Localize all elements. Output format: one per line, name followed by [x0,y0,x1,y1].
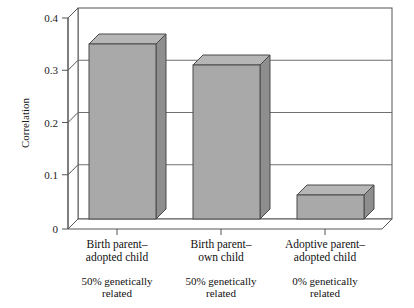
bar-1-front-face [89,44,156,219]
bar-3-front-face [297,195,364,219]
plot-left-wall [68,8,78,229]
y-axis-title: Correlation [19,97,31,148]
x-axis-sublabels: 50% genetically related 50% genetically … [81,275,358,299]
x-axis-category-labels: Birth parent– adopted child Birth parent… [86,238,365,264]
sublabel-1-line2: related [102,287,132,299]
category-label-3-line2: adopted child [294,251,357,264]
sublabel-3-line2: related [310,287,340,299]
ytick-label-0.1: 0.1 [44,169,58,181]
category-label-2-line1: Birth parent– [191,238,252,251]
bar-adoptive-parent-adopted-child[interactable] [297,185,374,219]
bar-1-top-face [89,34,166,44]
ytick-label-0.2: 0.2 [44,117,58,129]
chart-svg: 0.4 0.3 0.2 0.1 0 Correlation [0,0,414,308]
correlation-bar-chart: 0.4 0.3 0.2 0.1 0 Correlation [0,0,414,308]
y-axis-tick-labels: 0.4 0.3 0.2 0.1 0 [44,12,58,235]
bar-2-top-face [193,55,270,65]
category-label-1-line2: adopted child [86,251,149,264]
bar-2-side-face [260,55,270,219]
ytick-label-0.3: 0.3 [44,64,58,76]
bar-birth-parent-adopted-child[interactable] [89,34,166,219]
category-label-1-line1: Birth parent– [87,238,148,251]
sublabel-1-line1: 50% genetically [81,275,153,287]
ytick-label-0.4: 0.4 [44,12,58,24]
ytick-label-0: 0 [53,223,59,235]
bar-1-side-face [156,34,166,219]
category-label-2-line2: own child [198,251,244,263]
sublabel-2-line2: related [206,287,236,299]
sublabel-2-line1: 50% genetically [185,275,257,287]
category-label-3-line1: Adoptive parent– [285,238,365,251]
bar-birth-parent-own-child[interactable] [193,55,270,219]
bar-3-top-face [297,185,374,195]
x-axis-ticks [117,229,325,235]
sublabel-3-line1: 0% genetically [292,275,358,287]
plot-floor [68,219,392,229]
bar-2-front-face [193,65,260,219]
